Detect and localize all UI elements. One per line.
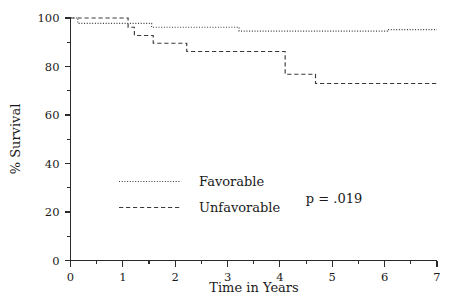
curve-unfavorable — [71, 18, 438, 83]
x-axis-title: Time in Years — [209, 280, 298, 295]
y-tick-label: 100 — [38, 11, 60, 25]
x-tick-label: 2 — [172, 270, 179, 284]
y-tick-group — [65, 18, 71, 261]
survival-chart: 020406080100 01234567 Favorable Unfavora… — [0, 0, 456, 304]
legend-label-unfavorable: Unfavorable — [199, 200, 281, 215]
y-tick-label: 40 — [45, 157, 60, 171]
legend-label-favorable: Favorable — [199, 174, 265, 189]
y-tick-label: 60 — [45, 108, 60, 122]
y-axis-title: % Survival — [8, 104, 23, 175]
x-tick-label: 6 — [381, 270, 388, 284]
y-tick-label: 20 — [45, 205, 60, 219]
curve-favorable — [71, 18, 438, 31]
y-axis: 020406080100 — [38, 11, 71, 268]
series-group — [71, 18, 438, 83]
p-value-annotation: p = .019 — [306, 191, 362, 206]
chart-canvas: 020406080100 01234567 Favorable Unfavora… — [0, 0, 456, 304]
x-tick-group — [71, 261, 438, 267]
x-tick-label: 0 — [67, 270, 74, 284]
x-tick-label: 7 — [433, 270, 440, 284]
legend: Favorable Unfavorable — [119, 174, 281, 215]
y-tick-label-group: 020406080100 — [38, 11, 60, 268]
x-tick-label: 1 — [119, 270, 126, 284]
x-tick-label: 5 — [329, 270, 336, 284]
y-tick-label: 0 — [52, 254, 59, 268]
y-tick-label: 80 — [45, 60, 60, 74]
